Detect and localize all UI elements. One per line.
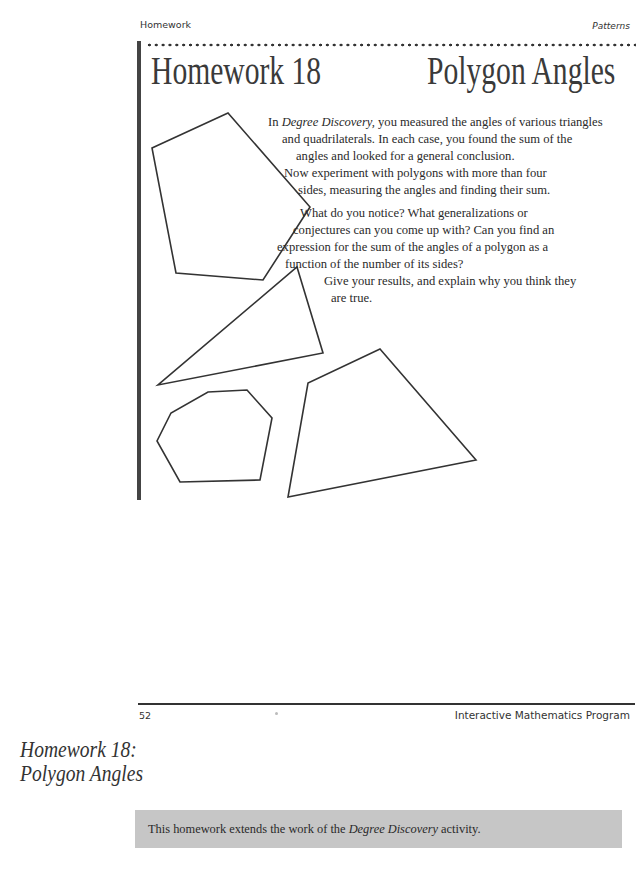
quadrilateral-figure <box>288 349 476 497</box>
text: activity. <box>438 822 481 836</box>
text-line: Now experiment with polygons with more t… <box>284 165 550 182</box>
activity-name: Degree Discovery, <box>282 115 375 129</box>
margin-title-line: Homework 18: <box>20 738 134 762</box>
paragraph-experiment: Now experiment with polygons with more t… <box>284 165 550 199</box>
margin-title-line: Polygon Angles <box>20 762 134 786</box>
text: This homework extends the work of the <box>148 822 349 836</box>
text-line: are true. <box>291 290 576 307</box>
publisher-name: Interactive Mathematics Program <box>455 709 630 721</box>
activity-name: Degree Discovery <box>349 822 438 836</box>
text-line: expression for the sum of the angles of … <box>277 239 554 256</box>
footer-rule <box>138 703 635 705</box>
scan-speck <box>275 712 278 715</box>
page-number: 52 <box>139 710 151 721</box>
text: you measured the angles of various trian… <box>375 115 603 129</box>
heptagon-figure <box>157 390 272 482</box>
paragraph-results: Give your results, and explain why you t… <box>291 273 576 307</box>
text-line: and quadrilaterals. In each case, you fo… <box>268 131 603 148</box>
text-line: What do you notice? What generalizations… <box>290 205 554 222</box>
margin-title: Homework 18: Polygon Angles <box>0 738 134 786</box>
text-line: function of the number of its sides? <box>285 256 554 273</box>
text-line: Give your results, and explain why you t… <box>291 273 576 290</box>
teacher-note: This homework extends the work of the De… <box>148 822 481 837</box>
text: In <box>268 115 282 129</box>
text-line: angles and looked for a general conclusi… <box>268 148 603 165</box>
paragraph-questions: What do you notice? What generalizations… <box>290 205 554 273</box>
text-line: conjectures can you come up with? Can yo… <box>290 222 554 239</box>
paragraph-intro: In Degree Discovery, you measured the an… <box>268 114 603 165</box>
text-line: sides, measuring the angles and finding … <box>284 182 550 199</box>
